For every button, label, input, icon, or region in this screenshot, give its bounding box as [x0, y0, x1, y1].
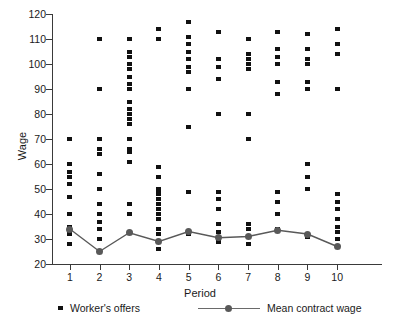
- offer-point: [156, 207, 161, 211]
- x-tick: [218, 264, 219, 270]
- y-tick: [46, 239, 52, 240]
- offer-point: [67, 162, 72, 166]
- offer-point: [335, 27, 340, 31]
- offer-point: [127, 100, 132, 104]
- y-tick-label: 110: [18, 34, 46, 44]
- offer-point: [156, 175, 161, 179]
- wage-scatter-figure: 2030405060708090100110120 Wage 123456789…: [0, 0, 395, 323]
- offer-point: [305, 62, 310, 66]
- mean-wage-point: [274, 227, 281, 234]
- offer-point: [127, 122, 132, 126]
- offer-point: [216, 57, 221, 61]
- y-tick-label: 100: [18, 59, 46, 69]
- offer-point: [305, 32, 310, 36]
- offer-point: [335, 225, 340, 229]
- offer-point: [127, 150, 132, 154]
- y-tick: [46, 189, 52, 190]
- offer-point: [216, 197, 221, 201]
- offer-point: [186, 57, 191, 61]
- x-tick: [100, 264, 101, 270]
- offer-point: [335, 192, 340, 196]
- offer-point: [97, 212, 102, 216]
- offer-point: [246, 222, 251, 226]
- offer-point: [97, 237, 102, 241]
- x-tick: [278, 264, 279, 270]
- offer-point: [127, 212, 132, 216]
- x-tick-label: 1: [59, 272, 81, 283]
- legend-label-workers-offers: Worker's offers: [70, 302, 140, 314]
- offer-point: [127, 112, 132, 116]
- x-tick-label: 6: [207, 272, 229, 283]
- offer-point: [156, 217, 161, 221]
- offer-point: [156, 37, 161, 41]
- mean-wage-point: [96, 248, 103, 255]
- x-tick: [307, 264, 308, 270]
- offer-point: [127, 82, 132, 86]
- offer-point: [216, 207, 221, 211]
- offer-point: [275, 30, 280, 34]
- x-tick-label: 5: [178, 272, 200, 283]
- offer-point: [156, 247, 161, 251]
- offer-point: [97, 147, 102, 151]
- y-tick-label: 90: [18, 84, 46, 94]
- y-tick-label: 40: [18, 209, 46, 219]
- legend-item-mean-contract-wage: Mean contract wage: [198, 300, 362, 316]
- offer-point: [305, 187, 310, 191]
- x-tick-label: 2: [89, 272, 111, 283]
- offer-point: [67, 232, 72, 236]
- offer-point: [216, 77, 221, 81]
- y-tick: [46, 264, 52, 265]
- offer-point: [127, 160, 132, 164]
- y-tick-label: 50: [18, 184, 46, 194]
- offer-point: [246, 227, 251, 231]
- square-marker-icon: [58, 306, 63, 310]
- offer-point: [216, 222, 221, 226]
- offer-point: [216, 30, 221, 34]
- offer-point: [67, 242, 72, 246]
- offer-point: [127, 37, 132, 41]
- offer-point: [97, 87, 102, 91]
- mean-wage-polyline: [70, 229, 337, 252]
- offer-point: [275, 47, 280, 51]
- offer-point: [156, 227, 161, 231]
- offer-point: [156, 165, 161, 169]
- offer-point: [216, 65, 221, 69]
- offer-point: [305, 175, 310, 179]
- y-tick: [46, 164, 52, 165]
- offer-point: [186, 87, 191, 91]
- offer-point: [216, 230, 221, 234]
- x-tick-label: 10: [326, 272, 348, 283]
- y-tick: [46, 39, 52, 40]
- offer-point: [246, 52, 251, 56]
- chart-legend: Worker's offers Mean contract wage: [58, 300, 388, 318]
- x-tick: [189, 264, 190, 270]
- offer-point: [275, 92, 280, 96]
- offer-point: [127, 87, 132, 91]
- mean-wage-point: [66, 226, 73, 233]
- y-tick: [46, 114, 52, 115]
- offer-point: [275, 190, 280, 194]
- offer-point: [335, 52, 340, 56]
- offer-point: [335, 217, 340, 221]
- offer-point: [97, 220, 102, 224]
- offer-point: [246, 112, 251, 116]
- offer-point: [127, 107, 132, 111]
- offer-point: [275, 62, 280, 66]
- offer-point: [335, 200, 340, 204]
- y-tick-label: 20: [18, 259, 46, 269]
- offer-point: [246, 37, 251, 41]
- offer-point: [127, 202, 132, 206]
- offer-point: [67, 195, 72, 199]
- offer-point: [67, 212, 72, 216]
- offer-point: [67, 137, 72, 141]
- offer-point: [246, 242, 251, 246]
- offer-point: [127, 50, 132, 54]
- offer-point: [275, 200, 280, 204]
- offer-point: [186, 35, 191, 39]
- offer-point: [216, 190, 221, 194]
- legend-item-workers-offers: Worker's offers: [58, 300, 140, 316]
- offer-point: [275, 55, 280, 59]
- offer-point: [246, 67, 251, 71]
- offer-point: [186, 42, 191, 46]
- y-tick: [46, 14, 52, 15]
